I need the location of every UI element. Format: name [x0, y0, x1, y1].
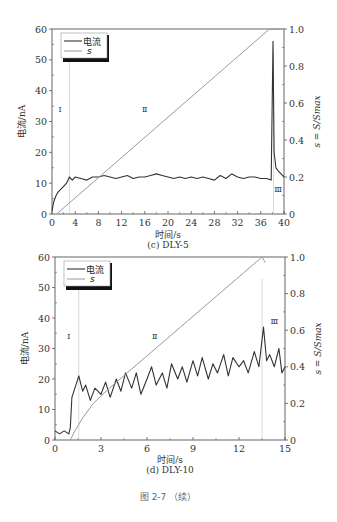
- x-tick-label: 24: [185, 217, 197, 228]
- y-left-axis-label: 电流/nA: [19, 331, 30, 365]
- x-tick-label: 6: [144, 443, 150, 454]
- x-tick-label: 36: [255, 217, 267, 228]
- y-right-tick-label: 1.0: [289, 24, 304, 35]
- region-label: Ⅱ: [142, 105, 147, 114]
- region-label: Ⅰ: [59, 105, 62, 114]
- region-label: Ⅲ: [270, 317, 278, 326]
- y-right-tick-label: 0.6: [289, 98, 304, 109]
- x-tick-label: 0: [52, 443, 58, 454]
- x-tick-label: 16: [139, 217, 151, 228]
- region-label: Ⅰ: [67, 332, 70, 341]
- x-tick-label: 0: [49, 217, 55, 228]
- chart-subtitle: (d) DLY-10: [146, 465, 194, 475]
- chart-subtitle: (c) DLY-5: [147, 240, 189, 250]
- series-current-line: [55, 327, 285, 434]
- y-right-tick-label: 0: [289, 209, 295, 220]
- y-right-tick-label: 0.8: [290, 288, 305, 299]
- x-axis-label: 时间/s: [155, 229, 181, 240]
- legend-label-s: s: [87, 46, 92, 56]
- y-left-tick-label: 10: [38, 404, 50, 415]
- x-tick-label: 32: [232, 217, 244, 228]
- figure-canvas: 0481216202428323640010203040506000.20.40…: [0, 0, 337, 522]
- y-right-tick-label: 1.0: [290, 252, 305, 263]
- y-right-tick-label: 0.6: [290, 325, 305, 336]
- y-left-tick-label: 10: [35, 178, 47, 189]
- x-tick-label: 3: [98, 443, 104, 454]
- y-right-tick-label: 0.8: [289, 61, 304, 72]
- y-left-tick-label: 50: [35, 54, 47, 65]
- y-left-tick-label: 0: [44, 435, 50, 446]
- y-right-axis-label: s = S/Smax: [313, 322, 323, 374]
- y-left-tick-label: 20: [35, 147, 47, 158]
- y-left-tick-label: 60: [38, 252, 50, 263]
- x-tick-label: 8: [95, 217, 101, 228]
- x-tick-label: 12: [116, 217, 128, 228]
- y-right-axis-label: s = S/Smax: [312, 95, 322, 147]
- y-right-tick-label: 0.4: [289, 135, 304, 146]
- chart-c: 0481216202428323640010203040506000.20.40…: [16, 24, 322, 251]
- y-left-tick-label: 50: [38, 282, 50, 293]
- legend-label-current: 电流: [83, 36, 101, 47]
- x-tick-label: 20: [162, 217, 174, 228]
- region-label: Ⅱ: [152, 332, 157, 341]
- x-tick-label: 9: [190, 443, 196, 454]
- series-current-line: [52, 41, 284, 211]
- chart-d: 03691215010203040506000.20.40.60.81.0ⅠⅡⅢ…: [19, 252, 323, 476]
- x-tick-label: 28: [208, 217, 220, 228]
- legend-label-s: s: [90, 274, 95, 284]
- y-left-tick-label: 30: [35, 116, 47, 127]
- y-left-tick-label: 20: [38, 374, 50, 385]
- y-right-tick-label: 0: [290, 435, 296, 446]
- y-left-tick-label: 60: [35, 24, 47, 35]
- y-right-tick-label: 0.2: [289, 172, 304, 183]
- x-tick-label: 12: [233, 443, 245, 454]
- y-right-tick-label: 0.2: [290, 398, 305, 409]
- x-tick-label: 4: [72, 217, 78, 228]
- y-left-tick-label: 30: [38, 343, 50, 354]
- figure-caption: 图 2-7 （续）: [140, 491, 196, 502]
- y-left-tick-label: 40: [38, 313, 50, 324]
- y-left-tick-label: 0: [41, 209, 47, 220]
- y-right-tick-label: 0.4: [290, 361, 305, 372]
- legend-label-current: 电流: [86, 264, 104, 275]
- region-label: Ⅲ: [274, 185, 282, 194]
- y-left-tick-label: 40: [35, 85, 47, 96]
- x-axis-label: 时间/s: [157, 454, 183, 465]
- y-left-axis-label: 电流/nA: [16, 104, 27, 138]
